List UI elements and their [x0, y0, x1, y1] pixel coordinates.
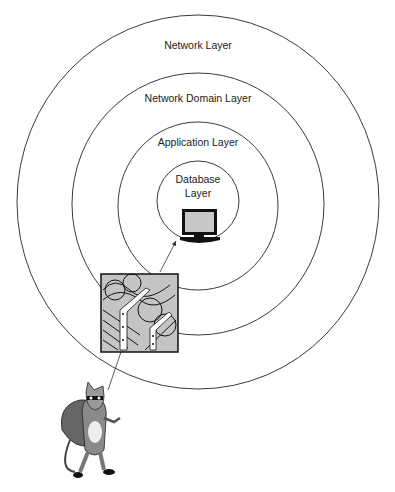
security-layers-diagram: Network Layer Network Domain Layer Appli…	[0, 0, 395, 492]
arrow-attacker-to-barrier	[108, 352, 121, 390]
burglar-rat-cartoon-icon	[61, 382, 120, 478]
arrow-barrier-to-core	[160, 241, 176, 272]
network-layer-label: Network Layer	[164, 39, 232, 51]
barbed-wire-fence-icon	[101, 274, 178, 352]
application-layer-label: Application Layer	[158, 136, 239, 148]
database-layer-label-line2: Layer	[185, 187, 212, 199]
computer-monitor-icon	[180, 209, 220, 243]
network-domain-layer-label: Network Domain Layer	[145, 92, 252, 104]
network-layer-ring	[17, 15, 379, 389]
database-layer-label-line1: Database	[176, 173, 221, 185]
